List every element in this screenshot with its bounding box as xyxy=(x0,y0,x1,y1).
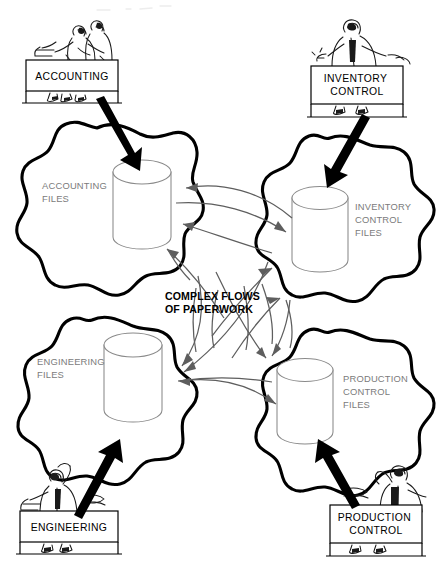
accounting-files-blob-outline xyxy=(17,122,204,295)
engineering-feet-sketch xyxy=(41,544,72,552)
scan-artifacts xyxy=(96,6,171,24)
engineering-label: ENGINEERING xyxy=(31,522,108,533)
accounting-label: ACCOUNTING xyxy=(35,71,108,82)
accounting-feet-sketch xyxy=(47,93,86,102)
inventory-control-files-cylinder xyxy=(292,187,348,273)
accounting-people-sketch xyxy=(35,21,112,60)
flow-extra-3 xyxy=(262,284,273,344)
production-feet-sketch xyxy=(349,545,386,553)
accounting-files-cloud: ACCOUNTING FILES xyxy=(17,122,204,295)
inventory-control-desk-box[interactable] xyxy=(311,66,403,104)
inventory-people-sketch xyxy=(312,20,410,66)
flow-engineering-to-inventory xyxy=(212,268,272,336)
accounting-files-cylinder xyxy=(113,160,171,249)
center-note-label: COMPLEX FLOWS OF PAPERWORK xyxy=(165,290,263,315)
diagram-canvas: ACCOUNTING FILES INVENTORY CONTROL FILES xyxy=(0,0,444,579)
flow-inventory-to-engineering xyxy=(184,262,268,372)
paperwork-flow-diagram: ACCOUNTING FILES INVENTORY CONTROL FILES xyxy=(0,0,444,579)
department-accounting[interactable]: ACCOUNTING xyxy=(22,21,122,103)
production-control-files-cylinder xyxy=(277,359,333,445)
production-control-files-cloud: PRODUCTION CONTROL FILES xyxy=(256,329,434,496)
inventory-feet-sketch xyxy=(333,106,368,114)
department-inventory-control[interactable]: INVENTORY CONTROL xyxy=(307,20,410,117)
production-control-desk-box[interactable] xyxy=(330,505,422,543)
accounting-desk-floor xyxy=(22,91,122,103)
engineering-files-cylinder xyxy=(104,333,162,422)
